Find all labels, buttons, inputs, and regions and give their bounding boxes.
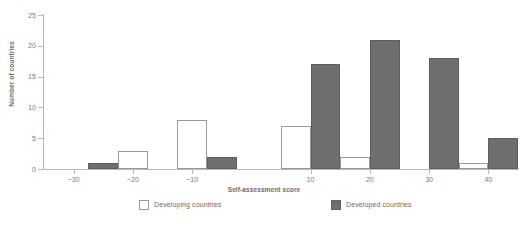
- plot-area: [44, 15, 518, 169]
- y-axis-tick-label: 25: [2, 12, 36, 19]
- y-axis-tick-label: 5: [2, 135, 36, 142]
- y-axis-tick-label-wrap: 20: [0, 42, 36, 49]
- bar-developed-20: [370, 40, 400, 169]
- y-axis-tick-label: 20: [2, 42, 36, 49]
- y-axis-tick-label-wrap: 0: [0, 166, 36, 173]
- chart-legend: Developing countries Developed countries: [0, 200, 528, 216]
- legend-swatch-developing-icon: [139, 200, 149, 210]
- x-axis-tick-label: −30: [54, 176, 94, 184]
- legend-label-developed: Developed countries: [346, 201, 412, 209]
- x-axis-tick-label: 10: [291, 176, 331, 184]
- y-axis-tick-label-wrap: 5: [0, 135, 36, 142]
- x-axis-line: [43, 169, 519, 170]
- chart-figure: Number of countries 0510152025 −30−20−10…: [0, 0, 528, 229]
- y-axis-tick-label: 10: [2, 104, 36, 111]
- x-axis-tick: [133, 170, 134, 174]
- x-axis-tick-label: 30: [409, 176, 449, 184]
- x-axis-tick-label: −10: [172, 176, 212, 184]
- bar-developed-40: [488, 138, 518, 169]
- bar-developed-30: [429, 58, 459, 169]
- y-axis-tick-label: 0: [2, 166, 36, 173]
- x-axis-title: Self-assessment score: [0, 186, 528, 194]
- y-axis-tick-label-wrap: 25: [0, 12, 36, 19]
- x-axis-tick: [488, 170, 489, 174]
- y-axis-tick: [38, 46, 43, 47]
- y-axis-tick: [38, 107, 43, 108]
- x-axis-tick: [370, 170, 371, 174]
- y-axis-tick: [38, 15, 43, 16]
- y-axis-tick: [38, 77, 43, 78]
- y-axis-tick-label-wrap: 15: [0, 73, 36, 80]
- bar-developing-10: [281, 126, 311, 169]
- bar-developed-minus30: [88, 163, 118, 169]
- legend-item-developed-countries: Developed countries: [331, 200, 412, 210]
- y-axis-tick-label-wrap: 10: [0, 104, 36, 111]
- legend-label-developing: Developing countries: [154, 201, 221, 209]
- x-axis-tick-label: 40: [468, 176, 508, 184]
- x-axis-tick: [74, 170, 75, 174]
- bar-developed-10: [311, 64, 341, 169]
- x-axis-tick: [192, 170, 193, 174]
- bar-developing-minus20: [118, 151, 148, 169]
- x-axis-tick: [429, 170, 430, 174]
- y-axis-tick: [38, 138, 43, 139]
- x-axis-tick-label: 20: [350, 176, 390, 184]
- bar-developing-40: [459, 163, 489, 169]
- bar-developed-minus10: [207, 157, 237, 169]
- bar-developing-minus10: [177, 120, 207, 169]
- y-axis-tick-label: 15: [2, 73, 36, 80]
- y-axis-tick: [38, 169, 43, 170]
- x-axis-tick-label: −20: [113, 176, 153, 184]
- legend-swatch-developed-icon: [331, 200, 341, 210]
- bar-developing-20: [340, 157, 370, 169]
- legend-item-developing-countries: Developing countries: [139, 200, 221, 210]
- x-axis-tick: [311, 170, 312, 174]
